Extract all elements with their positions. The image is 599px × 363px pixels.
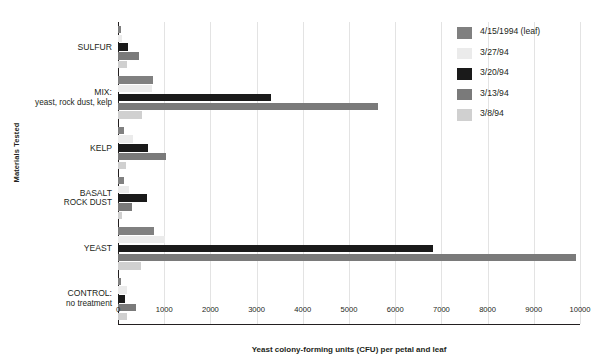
bar (118, 194, 147, 201)
bar (118, 286, 127, 293)
bar (118, 35, 122, 42)
bar (118, 135, 133, 142)
bar (118, 254, 576, 261)
bar (118, 85, 152, 92)
bar (118, 52, 139, 59)
gridline (580, 22, 581, 324)
bar (118, 162, 126, 169)
category-label-main: MIX: (94, 87, 112, 97)
legend-label: 3/8/94 (480, 108, 504, 118)
legend-swatch (457, 27, 472, 39)
bar-chart: Materials Tested SULFURMIX:yeast, rock d… (0, 0, 599, 363)
category-label-main: BASALT (80, 188, 112, 198)
bar (118, 76, 153, 83)
bar (118, 295, 125, 302)
bar (118, 177, 124, 184)
x-axis-title: Yeast colony-forming units (CFU) per pet… (118, 345, 580, 354)
bar (118, 26, 121, 33)
category-label-sub: ROCK DUST (0, 198, 112, 208)
category-label: KELP (0, 143, 112, 153)
category-label: YEAST (0, 243, 112, 253)
bar (118, 186, 129, 193)
bar (118, 278, 121, 285)
bar (118, 203, 132, 210)
x-tick-label: 10000 (550, 305, 599, 314)
bar-group (118, 76, 580, 119)
category-label-sub: yeast, rock dust, kelp (0, 98, 112, 108)
category-label: SULFUR (0, 42, 112, 52)
bar (118, 262, 141, 269)
bar (118, 212, 122, 219)
legend-swatch (457, 68, 472, 80)
category-label-main: CONTROL: (68, 288, 112, 298)
bar-group (118, 127, 580, 170)
category-label-main: KELP (90, 143, 112, 153)
category-label-main: SULFUR (78, 42, 112, 52)
bar (118, 94, 271, 101)
bar (118, 127, 124, 134)
legend-label: 3/27/94 (480, 47, 509, 57)
legend-swatch (457, 89, 472, 101)
category-label: MIX:yeast, rock dust, kelp (0, 87, 112, 108)
bar (118, 103, 378, 110)
bar-group (118, 177, 580, 220)
x-axis-line (118, 324, 580, 325)
bar (118, 111, 142, 118)
bar (118, 144, 148, 151)
bar (118, 43, 128, 50)
bar (118, 236, 165, 243)
plot-area (118, 22, 580, 324)
bar (118, 227, 154, 234)
legend-label: 3/20/94 (480, 67, 509, 77)
category-label: BASALTROCK DUST (0, 188, 112, 209)
bar (118, 245, 433, 252)
bar-group (118, 227, 580, 270)
bar (118, 153, 166, 160)
category-label-main: YEAST (84, 243, 112, 253)
legend-swatch (457, 109, 472, 121)
legend-swatch (457, 48, 472, 60)
bar (118, 61, 127, 68)
legend-label: 3/13/94 (480, 88, 509, 98)
legend-label: 4/15/1994 (leaf) (480, 26, 540, 36)
